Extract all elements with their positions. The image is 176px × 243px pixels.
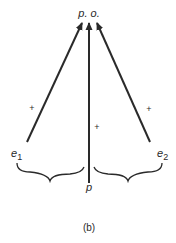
node-p: p xyxy=(85,181,92,193)
node-e1-sub: 1 xyxy=(17,152,22,162)
left-brace xyxy=(17,163,84,181)
sign-p-edge: + xyxy=(94,122,99,132)
figure-caption: (b) xyxy=(83,222,95,233)
node-e1: e1 xyxy=(11,147,22,162)
node-e2: e2 xyxy=(157,147,168,162)
node-e2-sub: 2 xyxy=(163,152,168,162)
arrow-e2-to-po xyxy=(97,23,150,142)
arrow-e1-to-po xyxy=(27,23,82,142)
sign-e1-edge: + xyxy=(29,103,34,113)
diagram-canvas: p. o. + + + e1 p e2 (b) xyxy=(0,0,176,243)
top-node-label: p. o. xyxy=(77,7,99,19)
sign-e2-edge: + xyxy=(146,104,151,114)
right-brace xyxy=(94,163,162,181)
